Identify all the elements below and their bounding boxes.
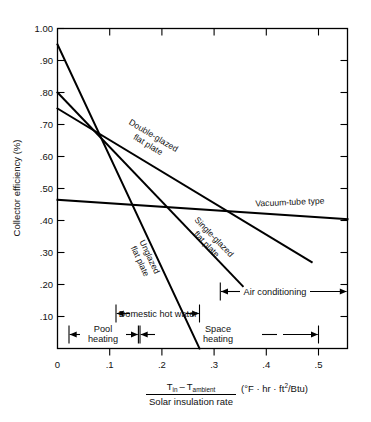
y-tick-label: .90	[40, 55, 53, 66]
range-label-space-line2: heating	[203, 334, 233, 344]
range-label-pool-line1: Pool	[94, 324, 112, 334]
y-axis-title: Collector efficiency (%)	[11, 140, 22, 237]
y-tick-label: 1.00	[35, 23, 54, 34]
formula-dash: –	[179, 381, 185, 392]
range-label-pool-line2: heating	[88, 334, 118, 344]
formula-sub-in: in	[172, 386, 177, 393]
y-tick-label: .20	[40, 279, 53, 290]
formula-sub-ambient: ambient	[193, 386, 216, 393]
range-label-domestic-hot-water: Domestic hot water	[119, 309, 198, 319]
x-tick-label: 0	[55, 359, 60, 370]
y-tick-label: .50	[40, 183, 53, 194]
x-tick-label: .3	[210, 359, 218, 370]
chart-svg: 1.00 .90 .80 .70 .60 .50 .40 .30 .20 .10…	[0, 0, 371, 422]
formula-denominator: Solar insulation rate	[149, 396, 233, 407]
collector-efficiency-chart: 1.00 .90 .80 .70 .60 .50 .40 .30 .20 .10…	[0, 0, 371, 422]
range-label-air-conditioning: Air conditioning	[244, 287, 307, 297]
x-tick-label: .2	[158, 359, 166, 370]
formula-units-pre: (°F · hr · ft	[241, 383, 285, 394]
x-tick-label: .5	[315, 359, 323, 370]
y-tick-label: .10	[40, 311, 53, 322]
formula-units: (°F · hr · ft2/Btu)	[241, 382, 308, 394]
y-tick-label: .40	[40, 215, 53, 226]
y-tick-label: .30	[40, 247, 53, 258]
formula-units-post: /Btu)	[288, 383, 308, 394]
y-tick-label: .60	[40, 151, 53, 162]
y-tick-label: .70	[40, 119, 53, 130]
range-label-space-line1: Space	[205, 324, 231, 334]
x-tick-label: .4	[262, 359, 270, 370]
y-tick-label: .80	[40, 87, 53, 98]
x-tick-label: .1	[106, 359, 114, 370]
